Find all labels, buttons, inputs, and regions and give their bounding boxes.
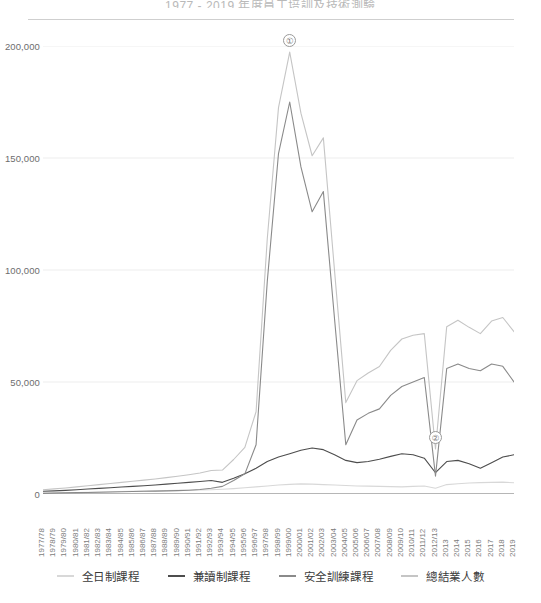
x-axis-tick-label: 2000/01 xyxy=(296,528,304,557)
x-axis-tick-label: 1990/91 xyxy=(184,528,192,557)
legend-line-icon xyxy=(401,575,418,577)
x-axis-tick-label: 2011/12 xyxy=(419,529,427,557)
x-axis-tick-label: 2017 xyxy=(487,539,495,557)
x-axis-tick-label: 1992/93 xyxy=(206,528,214,557)
x-axis-tick-label: 1986/87 xyxy=(139,528,147,557)
x-axis-tick-label: 1997/98 xyxy=(262,528,270,557)
x-axis-tick-label: 1996/97 xyxy=(251,528,259,557)
x-axis-tick-label: 2015 xyxy=(464,539,472,557)
x-axis-tick-label: 2003/04 xyxy=(330,528,338,557)
legend-item-label: 安全訓練課程 xyxy=(304,568,374,584)
series-line xyxy=(43,102,514,493)
legend-item[interactable]: 全日制課程 xyxy=(57,568,140,584)
x-axis-tick-label: 2002/03 xyxy=(318,528,326,557)
x-axis-tick-label: 2012/13 xyxy=(431,528,439,557)
chart-svg xyxy=(43,46,514,494)
x-axis-tick-label: 1988/89 xyxy=(161,528,169,557)
chart-title: 1977 - 2019 年度員工培訓及技術測驗 xyxy=(0,0,541,8)
x-axis-tick-label: 2009/10 xyxy=(397,528,405,557)
x-axis-tick-label: 1995/96 xyxy=(240,528,248,557)
legend-line-icon xyxy=(57,575,74,577)
x-axis-tick-label: 2001/02 xyxy=(307,528,315,557)
x-axis-tick-label: 2014 xyxy=(453,539,461,557)
title-divider xyxy=(28,19,514,20)
chart-legend: 全日制課程兼讀制課程安全訓練課程總結業人數 xyxy=(0,568,541,584)
x-axis-tick-label: 1982/83 xyxy=(94,528,102,557)
x-axis-tick-label: 1985/86 xyxy=(128,528,136,557)
y-axis-labels: 050,000100,000150,000200,000 xyxy=(0,0,40,603)
x-axis-tick-label: 2010/11 xyxy=(408,529,416,557)
x-axis-tick-label: 2013 xyxy=(442,539,450,557)
legend-item[interactable]: 總結業人數 xyxy=(401,568,484,584)
legend-line-icon xyxy=(168,575,185,577)
y-axis-tick-label: 200,000 xyxy=(0,41,40,52)
x-axis-tick-label: 1999/00 xyxy=(285,528,293,557)
series-line xyxy=(43,52,514,490)
x-axis-tick-label: 2019 xyxy=(509,539,517,557)
x-axis-tick-label: 2008/09 xyxy=(386,528,394,557)
y-axis-tick-label: 100,000 xyxy=(0,265,40,276)
chart-container: 1977 - 2019 年度員工培訓及技術測驗 050,000100,00015… xyxy=(0,0,541,603)
x-axis-tick-label: 1980/81 xyxy=(72,528,80,557)
x-axis-tick-label: 1994/95 xyxy=(229,528,237,557)
x-axis-tick-label: 1977/78 xyxy=(38,528,46,557)
x-axis-tick-label: 1984/85 xyxy=(117,528,125,557)
legend-item-label: 全日制課程 xyxy=(82,568,140,584)
x-axis-tick-label: 2018 xyxy=(498,539,506,557)
legend-line-icon xyxy=(279,575,296,577)
legend-item[interactable]: 兼讀制課程 xyxy=(168,568,251,584)
x-axis-tick-label: 2006/07 xyxy=(363,528,371,557)
x-axis-tick-label: 1978/79 xyxy=(49,528,57,557)
x-axis-labels: 1977/781978/791979/801980/811981/821982/… xyxy=(43,497,514,557)
x-axis-tick-label: 1989/90 xyxy=(173,528,181,557)
y-axis-tick-label: 50,000 xyxy=(0,377,40,388)
x-axis-tick-label: 1993/94 xyxy=(217,528,225,557)
x-axis-tick-label: 1979/80 xyxy=(60,528,68,557)
x-axis-tick-label: 1991/92 xyxy=(195,528,203,557)
x-axis-tick-label: 2005/06 xyxy=(352,528,360,557)
legend-item[interactable]: 安全訓練課程 xyxy=(279,568,374,584)
y-axis-tick-label: 0 xyxy=(0,489,40,500)
x-axis-tick-label: 2004/05 xyxy=(341,528,349,557)
x-axis-tick-label: 1981/82 xyxy=(83,528,91,557)
x-axis-tick-label: 2016 xyxy=(475,539,483,557)
x-axis-tick-label: 1987/88 xyxy=(150,528,158,557)
x-axis-tick-label: 2007/08 xyxy=(374,528,382,557)
y-axis-tick-label: 150,000 xyxy=(0,153,40,164)
legend-item-label: 兼讀制課程 xyxy=(193,568,251,584)
chart-annotation-2: ② xyxy=(429,431,442,444)
x-axis-tick-label: 1983/84 xyxy=(105,528,113,557)
x-axis-tick-label: 1998/99 xyxy=(274,528,282,557)
legend-item-label: 總結業人數 xyxy=(426,568,484,584)
plot-area xyxy=(43,46,514,494)
